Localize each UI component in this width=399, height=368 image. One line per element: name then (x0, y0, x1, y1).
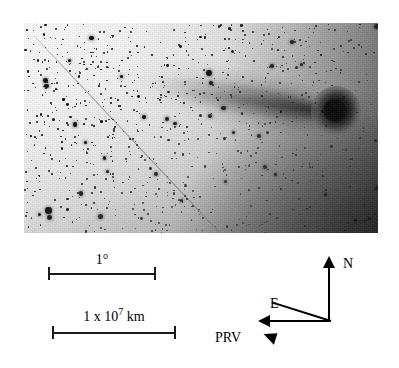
linear-scale-exponent: 7 (118, 306, 123, 317)
linear-scale-unit: km (127, 309, 145, 324)
linear-scale-label: 1 x 107 km (42, 306, 186, 325)
scale-bar-line (52, 332, 176, 334)
prv-arrow-head-icon (261, 329, 277, 344)
north-arrow-shaft (328, 266, 330, 322)
linear-scale-prefix: 1 x 10 (83, 309, 118, 324)
comet-plate-image (24, 23, 378, 233)
north-arrow-head-icon (323, 256, 335, 268)
prv-arrow-shaft (272, 301, 332, 322)
east-arrow-shaft (267, 320, 330, 322)
east-arrow-head-icon (258, 315, 270, 327)
film-grain-secondary (24, 23, 378, 233)
scale-bar-cap-right (174, 326, 176, 339)
orientation-compass: N E PRV (215, 248, 380, 353)
angular-scale-label: 1° (48, 252, 156, 268)
scale-bar-cap-left (52, 326, 54, 339)
scale-bar-line (48, 273, 156, 275)
scale-bar-cap-right (154, 267, 156, 280)
north-label: N (343, 256, 353, 272)
prv-label: PRV (215, 330, 241, 346)
scale-bar-cap-left (48, 267, 50, 280)
comet-figure: 1° 1 x 107 km N E PRV (0, 0, 399, 368)
